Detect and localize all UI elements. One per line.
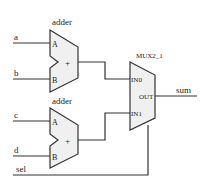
signal-c: c [14, 110, 18, 120]
signal-sum: sum [176, 85, 191, 95]
wire-adder-bottom-to-in1 [78, 113, 130, 140]
signal-a: a [14, 32, 18, 42]
wires [13, 43, 197, 175]
mux-in0: IN0 [131, 76, 142, 84]
adder-bottom-port-b: B [52, 153, 57, 162]
adder-top-plus: + [65, 58, 70, 68]
signal-sel: sel [16, 164, 26, 174]
wire-sel [13, 125, 148, 175]
mux2-1: MUX2_1 IN0 IN1 OUT [130, 52, 163, 130]
adder-top-port-b: B [52, 76, 57, 85]
signal-b: b [14, 68, 19, 78]
adder-bottom-port-a: A [52, 118, 58, 127]
adder-bottom: adder A B + [50, 96, 78, 168]
wire-adder-top-to-in0 [78, 62, 130, 79]
signal-d: d [14, 145, 19, 155]
adder-top-port-a: A [52, 40, 58, 49]
mux-out: OUT [139, 93, 154, 101]
mux-in1: IN1 [131, 110, 142, 118]
mux-title: MUX2_1 [136, 52, 163, 60]
adder-top: adder A B + [50, 17, 78, 92]
adder-bottom-title: adder [52, 96, 72, 106]
circuit-diagram: adder A B + adder A B + MUX2_1 IN0 IN1 O… [0, 0, 210, 188]
adder-bottom-plus: + [65, 136, 70, 146]
adder-top-title: adder [52, 17, 72, 27]
